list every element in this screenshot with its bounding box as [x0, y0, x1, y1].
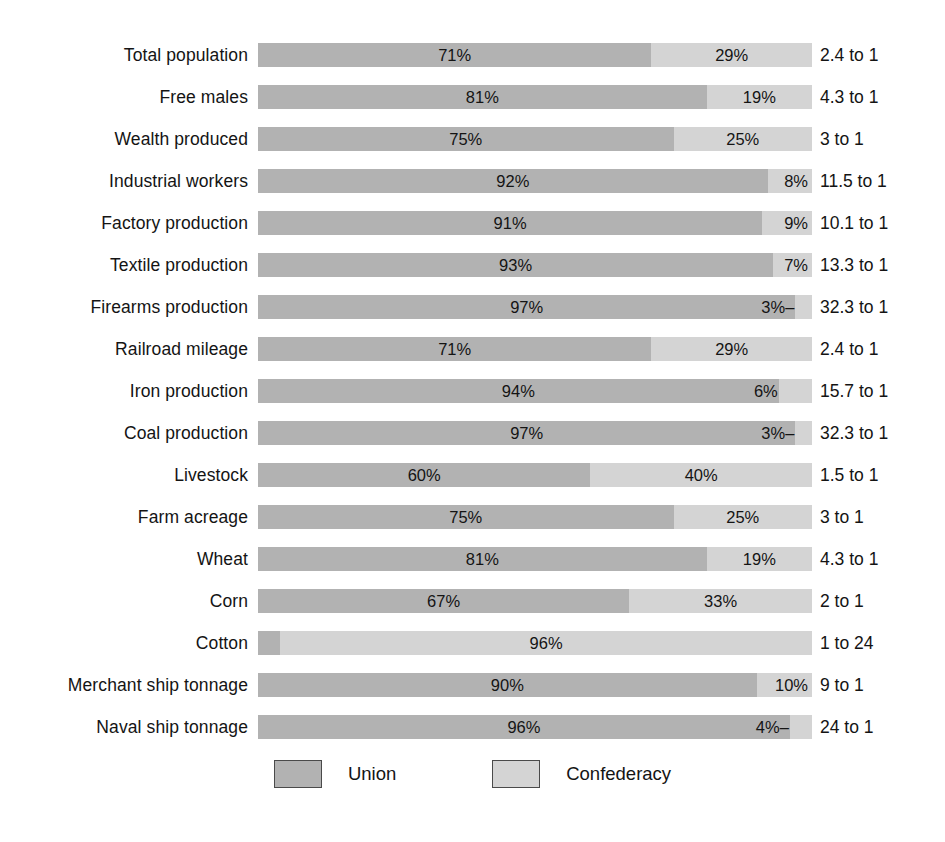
row-ratio-label: 4.3 to 1 [820, 87, 878, 108]
chart-row: Farm acreage75%25%3 to 1 [0, 496, 945, 538]
row-ratio-label: 32.3 to 1 [820, 423, 888, 444]
stacked-bar: 97%3%– [258, 421, 812, 445]
row-category-label: Factory production [0, 213, 248, 234]
chart-legend: Union Confederacy [0, 760, 945, 788]
bar-segment-union: 81% [258, 547, 707, 571]
bar-segment-union: 97% [258, 295, 795, 319]
stacked-bar: 81%19% [258, 85, 812, 109]
row-category-label: Merchant ship tonnage [0, 675, 248, 696]
row-category-label: Wealth produced [0, 129, 248, 150]
resources-comparison-chart: Total population71%29%2.4 to 1Free males… [0, 0, 945, 842]
row-ratio-label: 11.5 to 1 [820, 171, 887, 192]
row-category-label: Coal production [0, 423, 248, 444]
bar-segment-union: 75% [258, 505, 674, 529]
stacked-bar: 60%40% [258, 463, 812, 487]
bar-segment-confederacy-value: 7% [784, 257, 808, 274]
bar-segment-union-value: 75% [258, 131, 674, 148]
bar-segment-union: 91% [258, 211, 762, 235]
bar-segment-confederacy: 6% [779, 379, 812, 403]
chart-row: Corn67%33%2 to 1 [0, 580, 945, 622]
stacked-bar: 75%25% [258, 127, 812, 151]
row-ratio-label: 1 to 24 [820, 633, 874, 654]
bar-segment-union: –4% [258, 631, 280, 655]
bar-segment-union: 96% [258, 715, 790, 739]
row-ratio-label: 2.4 to 1 [820, 339, 878, 360]
row-category-label: Naval ship tonnage [0, 717, 248, 738]
legend-swatch-union [274, 760, 322, 788]
bar-segment-confederacy: 8% [768, 169, 812, 193]
bar-segment-union-value: 60% [258, 467, 590, 484]
bar-segment-confederacy: 25% [674, 505, 813, 529]
stacked-bar: –4%96% [258, 631, 812, 655]
chart-row: Merchant ship tonnage90%10%9 to 1 [0, 664, 945, 706]
row-category-label: Free males [0, 87, 248, 108]
stacked-bar: 81%19% [258, 547, 812, 571]
bar-segment-union: 71% [258, 43, 651, 67]
bar-segment-confederacy-value: 25% [674, 509, 813, 526]
chart-row: Railroad mileage71%29%2.4 to 1 [0, 328, 945, 370]
bar-segment-union: 75% [258, 127, 674, 151]
stacked-bar: 97%3%– [258, 295, 812, 319]
chart-row: Naval ship tonnage96%4%–24 to 1 [0, 706, 945, 748]
chart-row: Iron production94%6%15.7 to 1 [0, 370, 945, 412]
stacked-bar: 71%29% [258, 337, 812, 361]
row-category-label: Industrial workers [0, 171, 248, 192]
row-ratio-label: 2 to 1 [820, 591, 864, 612]
bar-segment-union: 97% [258, 421, 795, 445]
stacked-bar: 96%4%– [258, 715, 812, 739]
legend-item-union: Union [274, 760, 396, 788]
bar-segment-confederacy-value: 25% [674, 131, 813, 148]
chart-row: Total population71%29%2.4 to 1 [0, 34, 945, 76]
chart-row: Coal production97%3%–32.3 to 1 [0, 412, 945, 454]
chart-row: Wheat81%19%4.3 to 1 [0, 538, 945, 580]
row-ratio-label: 32.3 to 1 [820, 297, 888, 318]
stacked-bar: 92%8% [258, 169, 812, 193]
row-ratio-label: 9 to 1 [820, 675, 864, 696]
bar-segment-confederacy-value: 96% [280, 635, 812, 652]
row-category-label: Total population [0, 45, 248, 66]
bar-segment-confederacy: 40% [590, 463, 812, 487]
stacked-bar: 71%29% [258, 43, 812, 67]
bar-segment-union-value: 81% [258, 551, 707, 568]
row-ratio-label: 15.7 to 1 [820, 381, 888, 402]
stacked-bar: 93%7% [258, 253, 812, 277]
row-category-label: Cotton [0, 633, 248, 654]
chart-row: Textile production93%7%13.3 to 1 [0, 244, 945, 286]
bar-segment-union-value: 94% [258, 383, 779, 400]
row-category-label: Corn [0, 591, 248, 612]
stacked-bar: 94%6% [258, 379, 812, 403]
legend-label-confederacy: Confederacy [566, 763, 671, 785]
bar-segment-union-value: 97% [258, 425, 795, 442]
bar-segment-confederacy: 3%– [795, 295, 812, 319]
bar-segment-confederacy-value: 29% [651, 341, 812, 358]
bar-segment-confederacy: 4%– [790, 715, 812, 739]
row-category-label: Farm acreage [0, 507, 248, 528]
row-ratio-label: 2.4 to 1 [820, 45, 878, 66]
bar-segment-confederacy-value: 3%– [761, 299, 794, 316]
bar-segment-confederacy-value: 6% [754, 383, 778, 400]
row-category-label: Railroad mileage [0, 339, 248, 360]
bar-segment-confederacy-value: 29% [651, 47, 812, 64]
bar-segment-confederacy-value: 33% [629, 593, 812, 610]
legend-label-union: Union [348, 763, 396, 785]
row-category-label: Wheat [0, 549, 248, 570]
bar-segment-confederacy: 33% [629, 589, 812, 613]
row-ratio-label: 3 to 1 [820, 507, 864, 528]
bar-segment-confederacy: 29% [651, 43, 812, 67]
bar-segment-confederacy-value: 19% [707, 551, 812, 568]
bar-segment-union: 90% [258, 673, 757, 697]
chart-row: Wealth produced75%25%3 to 1 [0, 118, 945, 160]
bar-segment-confederacy-value: 4%– [756, 719, 789, 736]
bar-segment-confederacy: 7% [773, 253, 812, 277]
bar-segment-confederacy: 25% [674, 127, 813, 151]
chart-rows: Total population71%29%2.4 to 1Free males… [0, 34, 945, 748]
bar-segment-union: 60% [258, 463, 590, 487]
bar-segment-union: 81% [258, 85, 707, 109]
row-category-label: Textile production [0, 255, 248, 276]
bar-segment-union: 93% [258, 253, 773, 277]
bar-segment-union: 92% [258, 169, 768, 193]
bar-segment-union: 67% [258, 589, 629, 613]
row-category-label: Iron production [0, 381, 248, 402]
bar-segment-union-value: 71% [258, 341, 651, 358]
bar-segment-confederacy: 29% [651, 337, 812, 361]
